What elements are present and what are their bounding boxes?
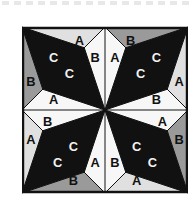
label-br-c2: C [148,155,157,170]
quadrant-top-right [105,27,188,110]
dashed-strip [0,0,196,10]
label-tl-a-top: A [75,33,84,48]
label-tr-c2: C [136,66,145,81]
label-bl-c2: C [53,155,62,170]
label-tl-c2: C [65,66,74,81]
label-br-b-left: B [110,155,119,170]
label-tr-b-top: B [126,33,135,48]
label-tr-a-right: A [174,74,183,89]
label-tl-a-bottom: A [49,92,58,107]
quadrant-bottom-left [22,110,105,193]
pattern-svg: C C A B B A C C B A A B [22,26,188,194]
label-bl-c1: C [69,139,78,154]
label-br-a-bottom: A [132,173,141,188]
label-bl-b-bottom: B [69,173,78,188]
label-br-c1: C [132,139,141,154]
dash-marks [2,1,189,5]
label-br-b-right: B [174,132,183,147]
label-br-a-top: A [158,114,167,129]
label-tl-b-right: B [90,50,99,65]
label-tl-b-left: B [26,74,35,89]
label-tr-c1: C [152,50,161,65]
label-tr-b-bottom: B [152,92,161,107]
label-tl-c1: C [49,50,58,65]
pattern-figure: C C A B B A C C B A A B [22,26,188,194]
label-tr-a-left: A [110,50,119,65]
label-bl-a-left: A [26,132,35,147]
figure-root: C C A B B A C C B A A B [0,0,196,206]
label-bl-a-right: A [90,155,99,170]
quadrant-bottom-right [105,110,188,193]
label-bl-b-top: B [43,114,52,129]
quadrant-top-left: C C A B B A [22,27,105,110]
